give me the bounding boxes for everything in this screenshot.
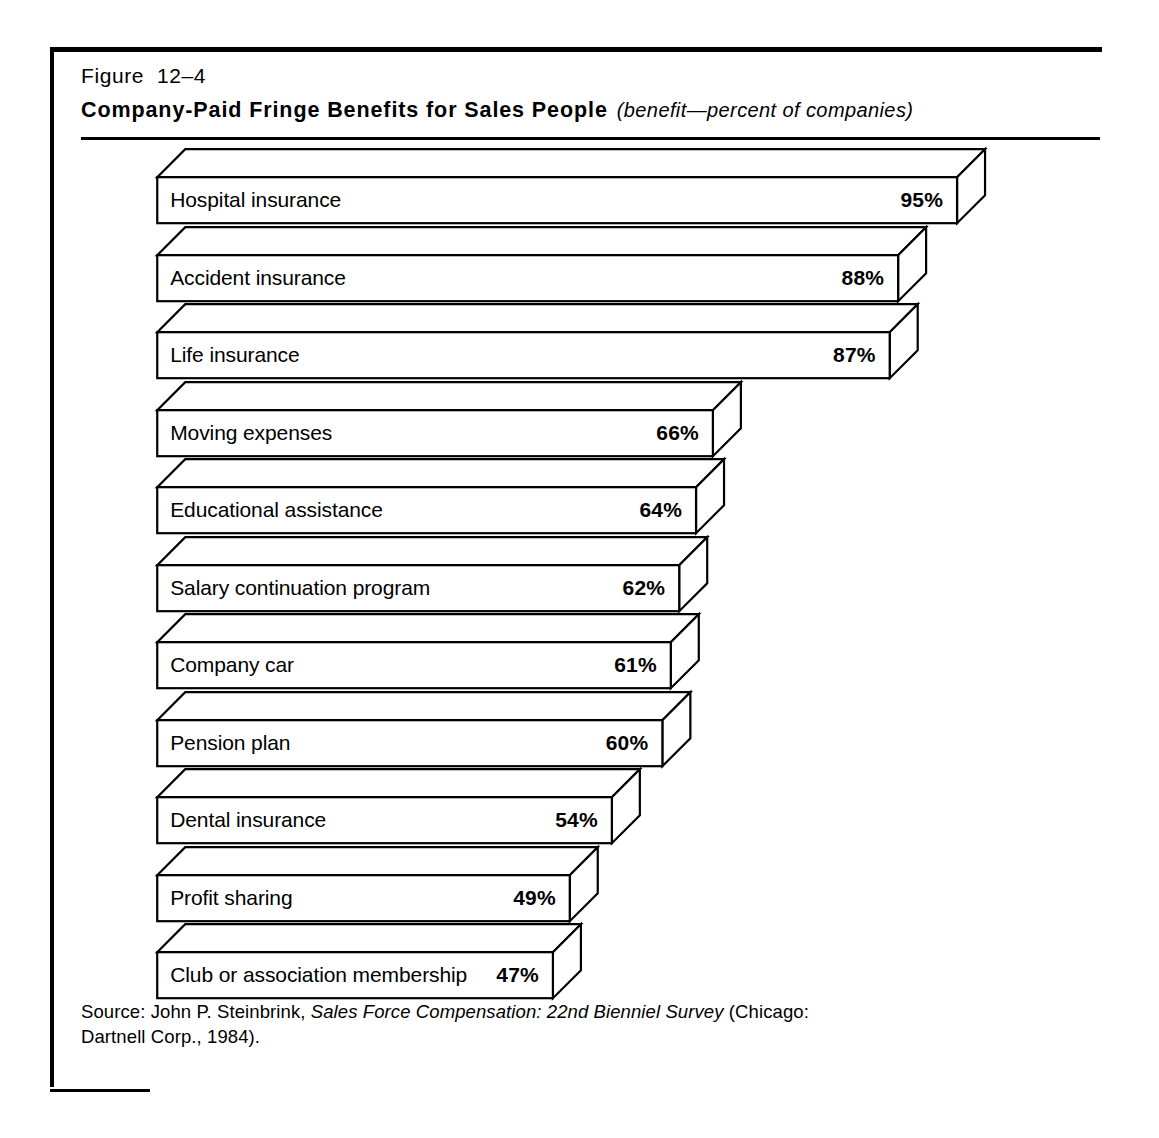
bar-front-face bbox=[157, 332, 889, 378]
bar-row[interactable]: Hospital insurance95% bbox=[155, 147, 989, 227]
bar-row[interactable]: Educational assistance64% bbox=[155, 457, 728, 537]
bar-3d-shape bbox=[155, 302, 920, 380]
bar-top-face bbox=[157, 537, 707, 565]
bar-row[interactable]: Club or association membership47% bbox=[155, 922, 585, 1002]
bar-top-face bbox=[157, 227, 926, 255]
figure-header: Figure 12–4 Company-Paid Fringe Benefits… bbox=[81, 61, 1091, 126]
figure-frame: Figure 12–4 Company-Paid Fringe Benefits… bbox=[50, 47, 1102, 1092]
bar-top-face bbox=[157, 614, 699, 642]
bar-row[interactable]: Salary continuation program62% bbox=[155, 535, 711, 615]
bar-row[interactable]: Accident insurance88% bbox=[155, 225, 930, 305]
bar-top-face bbox=[157, 692, 690, 720]
bar-front-face bbox=[157, 720, 662, 766]
bar-3d-shape bbox=[155, 457, 726, 535]
source-line-2: Dartnell Corp., 1984). bbox=[81, 1024, 1071, 1049]
source-suffix: (Chicago: bbox=[724, 1001, 809, 1022]
bar-row[interactable]: Profit sharing49% bbox=[155, 845, 602, 925]
header-rule bbox=[81, 137, 1100, 140]
bar-row[interactable]: Dental insurance54% bbox=[155, 767, 644, 847]
bar-top-face bbox=[157, 924, 581, 952]
bar-top-face bbox=[157, 149, 985, 177]
frame-top-rule bbox=[50, 47, 1102, 52]
bar-front-face bbox=[157, 177, 957, 223]
source-line-1: Source: John P. Steinbrink, Sales Force … bbox=[81, 999, 1071, 1024]
bar-3d-shape bbox=[155, 380, 743, 458]
bar-chart-plot: Hospital insurance95%Accident insurance8… bbox=[50, 147, 1102, 987]
bar-row[interactable]: Life insurance87% bbox=[155, 302, 922, 382]
figure-subtitle: (benefit—percent of companies) bbox=[617, 99, 914, 121]
source-prefix: Source: John P. Steinbrink, bbox=[81, 1001, 311, 1022]
bar-3d-shape bbox=[155, 147, 987, 225]
bar-3d-shape bbox=[155, 767, 642, 845]
bar-3d-shape bbox=[155, 612, 701, 690]
bar-top-face bbox=[157, 847, 598, 875]
bar-top-face bbox=[157, 459, 724, 487]
figure-number: Figure 12–4 bbox=[81, 61, 1091, 90]
bar-3d-shape bbox=[155, 225, 928, 303]
bar-front-face bbox=[157, 797, 612, 843]
bar-top-face bbox=[157, 304, 917, 332]
source-note: Source: John P. Steinbrink, Sales Force … bbox=[81, 999, 1071, 1049]
source-publication-title: Sales Force Compensation: 22nd Bienniel … bbox=[311, 1001, 724, 1022]
bar-front-face bbox=[157, 410, 713, 456]
bar-front-face bbox=[157, 255, 898, 301]
bar-3d-shape bbox=[155, 690, 693, 768]
bar-3d-shape bbox=[155, 922, 583, 1000]
bar-front-face bbox=[157, 875, 570, 921]
bar-row[interactable]: Moving expenses66% bbox=[155, 380, 745, 460]
bar-top-face bbox=[157, 382, 741, 410]
bar-top-face bbox=[157, 769, 640, 797]
bar-row[interactable]: Company car61% bbox=[155, 612, 703, 692]
bar-front-face bbox=[157, 952, 553, 998]
bar-front-face bbox=[157, 642, 671, 688]
bar-row[interactable]: Pension plan60% bbox=[155, 690, 694, 770]
figure-title: Company-Paid Fringe Benefits for Sales P… bbox=[81, 98, 608, 122]
bar-front-face bbox=[157, 565, 679, 611]
figure-title-line: Company-Paid Fringe Benefits for Sales P… bbox=[81, 96, 1091, 126]
frame-bottom-rule bbox=[50, 1089, 150, 1092]
bar-3d-shape bbox=[155, 535, 709, 613]
bar-front-face bbox=[157, 487, 696, 533]
bar-3d-shape bbox=[155, 845, 600, 923]
